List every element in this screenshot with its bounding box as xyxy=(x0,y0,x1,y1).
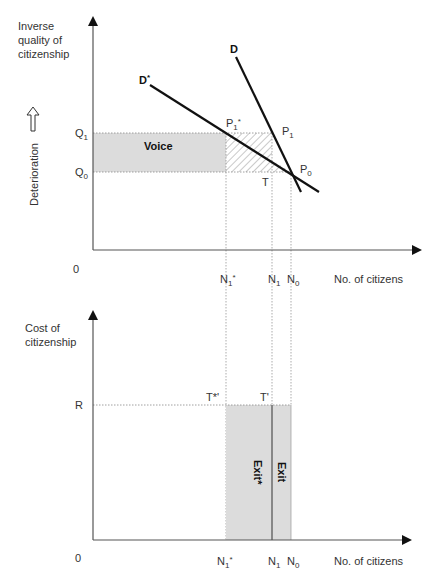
y-label-bottom-2: citizenship xyxy=(25,336,76,348)
x-arrow-top-icon xyxy=(412,245,422,255)
voice-region xyxy=(93,133,226,172)
voice-label: Voice xyxy=(144,140,173,152)
y-label-top-2: quality of xyxy=(18,34,63,46)
up-hollow-arrow-icon xyxy=(27,107,39,131)
y-arrow-top-icon xyxy=(88,16,98,26)
tick-n1star-top: N1* xyxy=(220,273,236,288)
point-p1star: P1* xyxy=(226,117,241,132)
point-t: T xyxy=(262,176,269,188)
tick-n0-top: N0 xyxy=(287,273,300,288)
tick-n0-bottom: N0 xyxy=(287,555,300,570)
point-p0: P0 xyxy=(300,163,312,178)
y-arrow-bottom-icon xyxy=(88,310,98,320)
point-t-prime: T' xyxy=(260,391,269,403)
y-label-top-1: Inverse xyxy=(18,20,54,32)
x-label-bottom: No. of citizens xyxy=(334,555,404,567)
label-d-star: D* xyxy=(139,73,151,86)
exit-star-label: Exit* xyxy=(252,460,264,485)
y-label-top-3: citizenship xyxy=(18,48,69,60)
x-arrow-bottom-icon xyxy=(402,535,412,545)
label-d: D xyxy=(230,43,238,55)
bottom-panel: Cost of citizenship R T*' T' Exit* Exit … xyxy=(25,310,412,570)
tick-n1-top: N1 xyxy=(268,273,281,288)
point-p1: P1 xyxy=(282,125,294,140)
point-tstar-prime: T*' xyxy=(206,391,219,403)
y-label-bottom-1: Cost of xyxy=(25,322,61,334)
origin-top: 0 xyxy=(73,263,79,275)
exit-label: Exit xyxy=(276,462,288,483)
exit-star-region xyxy=(226,405,272,540)
top-panel: Inverse quality of citizenship Deteriora… xyxy=(18,16,422,540)
deterioration-label: Deterioration xyxy=(28,143,40,206)
origin-bottom: 0 xyxy=(75,552,81,564)
tick-n1star-bottom: N1* xyxy=(217,555,233,570)
tick-q1: Q1 xyxy=(75,127,89,142)
voice-exit-diagram: Inverse quality of citizenship Deteriora… xyxy=(0,0,440,581)
tick-q0: Q0 xyxy=(75,166,89,181)
x-label-top: No. of citizens xyxy=(334,273,404,285)
tick-n1-bottom: N1 xyxy=(268,555,281,570)
tick-r: R xyxy=(75,399,83,411)
